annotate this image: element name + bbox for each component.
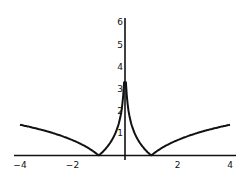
- x-tick-label: −4: [13, 160, 27, 170]
- y-tick-label: 6: [117, 17, 123, 27]
- x-tick-label: 4: [227, 160, 233, 170]
- x-tick-labels: −4−224: [13, 160, 233, 170]
- x-tick-label: −2: [66, 160, 79, 170]
- x-tick-label: 2: [175, 160, 181, 170]
- y-tick-label: 1: [117, 128, 123, 138]
- plot-area: −4−224 123456: [0, 0, 247, 181]
- y-tick-label: 5: [117, 40, 123, 50]
- y-tick-label: 3: [117, 84, 123, 94]
- y-tick-label: 4: [117, 62, 123, 72]
